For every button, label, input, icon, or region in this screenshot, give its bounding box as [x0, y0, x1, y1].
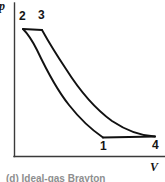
process-2-3-isobaric-top	[23, 29, 42, 30]
pv-diagram-canvas	[0, 0, 165, 182]
y-axis-label-pressure: p	[0, 0, 5, 12]
process-4-1-isobaric-bottom	[103, 137, 155, 138]
state-point-label-2: 2	[19, 10, 26, 22]
process-1-2-isentropic-compression	[23, 29, 103, 138]
axes-group	[14, 3, 165, 157]
process-3-4-isentropic-expansion	[42, 30, 155, 137]
pv-diagram-figure: p V 2 3 1 4 (d) Ideal-gas Brayton	[0, 0, 165, 182]
x-axis-label-volume: V	[150, 161, 158, 173]
state-point-label-3: 3	[38, 9, 45, 21]
state-point-label-4: 4	[152, 139, 159, 151]
state-point-label-1: 1	[100, 140, 107, 152]
figure-caption: (d) Ideal-gas Brayton	[6, 174, 165, 182]
cycle-curves-group	[23, 29, 155, 138]
